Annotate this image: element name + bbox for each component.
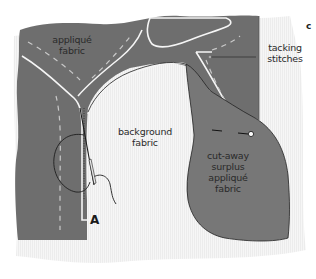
applique-diagram: appliqué fabric tacking stitches backgro… <box>0 0 316 279</box>
label-tacking-stitches: tacking stitches <box>256 42 314 64</box>
label-background-fabric: background fabric <box>110 126 180 148</box>
label-cutaway-fabric: cut-away surplus appliqué fabric <box>198 150 258 194</box>
panel-label: c <box>306 21 311 31</box>
point-label-a: A <box>90 213 99 227</box>
tacking-leader-dot <box>209 56 212 59</box>
label-applique-fabric: appliqué fabric <box>48 34 96 56</box>
